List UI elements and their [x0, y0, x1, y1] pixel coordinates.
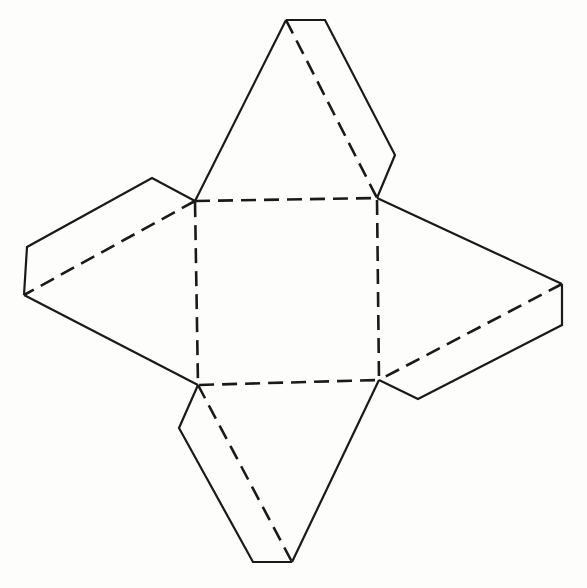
- base-square-fold: [195, 198, 379, 385]
- top-face-edge: [195, 20, 286, 201]
- right-face-edge: [377, 198, 562, 284]
- right-tab-fold: [379, 284, 562, 380]
- top-tab-fold: [286, 20, 377, 198]
- pyramid-net-diagram: [0, 0, 587, 588]
- left-face-edge: [24, 295, 198, 385]
- bottom-face-edge: [292, 380, 379, 562]
- top-tab: [286, 20, 395, 198]
- bottom-tab: [179, 385, 292, 562]
- fold-lines: [24, 20, 562, 562]
- cut-lines: [24, 20, 562, 562]
- left-tab: [24, 178, 195, 295]
- bottom-tab-fold: [198, 385, 292, 562]
- left-tab-fold: [24, 201, 195, 295]
- right-tab: [379, 284, 562, 399]
